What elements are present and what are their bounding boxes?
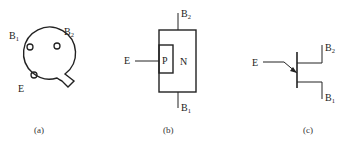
label-b1: B1	[325, 92, 335, 104]
label-b2: B2	[181, 8, 191, 20]
caption-b: (b)	[163, 125, 174, 135]
label-p: P	[162, 55, 168, 66]
pin-b2	[54, 43, 60, 49]
lead-b1	[297, 82, 322, 99]
label-b2: B2	[64, 26, 74, 38]
panel-c-symbol: E B2 B1 (c)	[252, 42, 335, 135]
label-b1: B1	[181, 102, 191, 114]
caption-c: (c)	[303, 125, 313, 135]
label-e: E	[18, 83, 24, 94]
caption-a: (a)	[34, 125, 44, 135]
panel-a-package-view: B1 B2 E (a)	[9, 26, 76, 135]
label-b2: B2	[325, 42, 335, 54]
label-b1: B1	[9, 30, 19, 42]
panel-b-structure: B2 B1 E P N (b)	[124, 8, 196, 135]
label-n: N	[180, 56, 187, 67]
lead-b2	[297, 45, 322, 63]
pin-b1	[27, 44, 33, 50]
label-e: E	[124, 55, 130, 66]
ujt-diagram: B1 B2 E (a) B2 B1 E P N (b) E B2 B1 (c)	[0, 0, 344, 146]
label-e: E	[252, 57, 258, 68]
